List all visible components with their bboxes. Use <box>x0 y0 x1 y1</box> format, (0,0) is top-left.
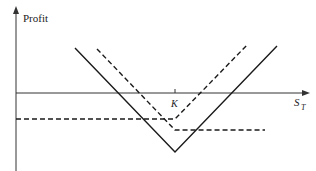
x-axis-label-subscript: T <box>301 103 306 112</box>
x-axis-label: S <box>294 96 300 108</box>
y-axis-label: Profit <box>23 12 48 24</box>
call-profit-line <box>16 45 247 119</box>
strike-label: K <box>170 98 179 109</box>
put-profit-line <box>97 49 265 130</box>
straddle-diagram: Profit K S T <box>0 0 316 171</box>
